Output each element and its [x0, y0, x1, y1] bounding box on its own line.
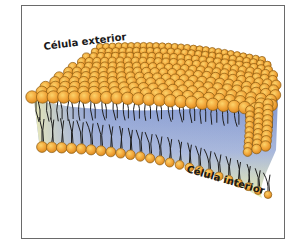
- lipid-bilayer-diagram: Célula exterior Célula interior: [0, 0, 304, 250]
